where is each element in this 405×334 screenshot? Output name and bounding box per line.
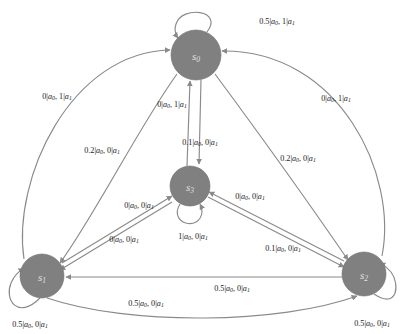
node-s1[interactable]: s1 bbox=[20, 254, 64, 298]
edge-label-s3-s1: 0|a0, 0|a1 bbox=[109, 235, 139, 245]
edge-s3-to-s0 bbox=[187, 81, 190, 166]
edge-label-s1-s3: 0|a0, 0|a1 bbox=[124, 201, 154, 211]
edge-label-s0-s2: 0.2|a0, 0|a1 bbox=[280, 154, 316, 164]
edge-s3-to-s2 bbox=[208, 197, 344, 267]
edge-label-s3-s2: 0.1|a0, 0|a1 bbox=[265, 244, 301, 254]
edge-label-s2-s0: 0|a0, 1|a1 bbox=[321, 94, 351, 104]
node-s2[interactable]: s2 bbox=[342, 252, 386, 296]
edge-s1-to-s2 bbox=[47, 296, 357, 318]
node-s2-subscript: 2 bbox=[364, 274, 368, 283]
edge-s1-to-s3 bbox=[62, 196, 172, 263]
node-s3[interactable]: s3 bbox=[170, 166, 210, 206]
node-s3-subscript: 3 bbox=[189, 186, 194, 195]
edge-label-s3-s0: 0|a0, 1|a1 bbox=[157, 100, 187, 110]
edge-label-s1-self: 0.5|a0, 0|a1 bbox=[12, 320, 48, 330]
node-s0[interactable]: s0 bbox=[171, 30, 221, 80]
edge-label-s2-self: 0.5|a0, 0|a1 bbox=[354, 319, 390, 329]
edge-label-s1-s2: 0.5|a0, 0|a1 bbox=[128, 299, 164, 309]
state-diagram-svg: s0 s1 s2 s3 0.5|a0, 1 bbox=[0, 0, 405, 334]
nodes-layer: s0 s1 s2 s3 bbox=[20, 30, 386, 298]
edge-s0-to-s3 bbox=[199, 80, 201, 164]
edge-label-s2-s3: 0|a0, 0|a1 bbox=[235, 192, 265, 202]
edge-label-s3-self: 1|a0, 0|a1 bbox=[178, 232, 208, 242]
node-s0-subscript: 0 bbox=[196, 55, 200, 64]
edge-s3-self bbox=[177, 204, 202, 224]
node-s1-subscript: 1 bbox=[42, 276, 46, 285]
state-diagram-canvas: s0 s1 s2 s3 0.5|a0, 1 bbox=[0, 0, 405, 334]
edge-label-s0-self: 0.5|a0, 1|a1 bbox=[259, 17, 295, 27]
edge-label-s2-s1: 0.5|a0, 0|a1 bbox=[214, 284, 250, 294]
edge-s1-to-s0 bbox=[22, 50, 170, 259]
edge-label-s0-s3: 0.1|a0, 0|a1 bbox=[182, 138, 218, 148]
edge-label-s0-s1: 0.2|a0, 0|a1 bbox=[84, 146, 120, 156]
edge-label-s1-s0: 0|a0, 1|a1 bbox=[42, 92, 72, 102]
